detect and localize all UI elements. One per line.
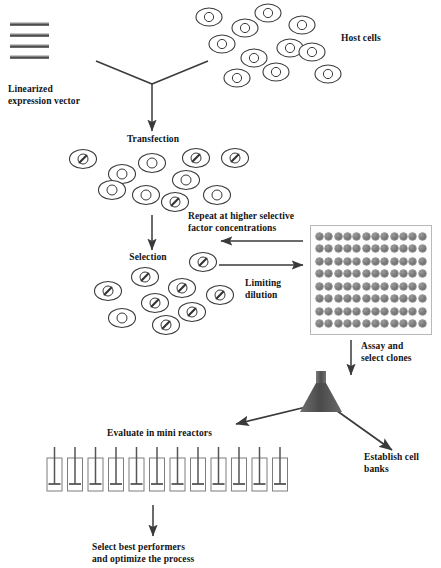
label-host-cells: Host cells (341, 33, 421, 45)
host-cell-cluster (196, 4, 341, 87)
cell-nucleus (147, 158, 157, 168)
cell (153, 316, 180, 335)
mini-reactor (68, 447, 83, 491)
label-limiting-dilution: Limiting dilution (245, 278, 315, 301)
cell (289, 16, 315, 34)
cells-to-transfection-right-branch (152, 61, 208, 84)
cell (299, 43, 325, 61)
cell-nucleus (307, 47, 316, 56)
label-transfection: Transfection (110, 134, 196, 146)
cell (133, 186, 160, 205)
cell (263, 63, 289, 81)
mini-reactor (170, 447, 185, 491)
cell-nucleus (249, 53, 258, 62)
cell (132, 268, 159, 287)
cell-nucleus (297, 20, 306, 29)
cell-nucleus (141, 190, 151, 200)
cell (255, 4, 281, 22)
cell (224, 69, 250, 87)
selected-cell-cluster (95, 253, 234, 335)
cell-nucleus (240, 23, 249, 32)
label-selection: Selection (110, 252, 186, 264)
mini-reactor-row (47, 447, 288, 491)
vector-to-transfection-left-branch (96, 61, 152, 84)
cell (315, 65, 341, 83)
cell (222, 149, 249, 168)
cell (204, 186, 231, 205)
cell-nucleus (285, 43, 294, 52)
funnel-icon (300, 371, 342, 412)
mini-reactor (273, 447, 288, 491)
label-establish-cell-banks: Establish cell banks (364, 452, 440, 475)
cell-nucleus (204, 12, 213, 21)
label-evaluate-mini-reactors: Evaluate in mini reactors (107, 428, 247, 440)
cell (109, 309, 136, 328)
cell-nucleus (107, 185, 117, 195)
cell (142, 294, 169, 313)
mini-reactor (150, 447, 165, 491)
cell (241, 49, 267, 67)
cell-nucleus (181, 175, 191, 185)
cell-nucleus (117, 313, 127, 323)
workflow-diagram: Linearized expression vector Host cells … (0, 0, 441, 568)
cell (179, 303, 206, 322)
mini-reactor (88, 447, 103, 491)
mini-reactor (47, 447, 62, 491)
cell (190, 253, 217, 272)
mini-reactor (211, 447, 226, 491)
cell-nucleus (323, 69, 332, 78)
cell (232, 19, 258, 37)
cell (209, 35, 235, 53)
cell-nucleus (271, 67, 280, 76)
cell (169, 279, 196, 298)
label-assay-select-clones: Assay and select clones (361, 341, 441, 364)
transfected-cell-cluster (70, 149, 249, 212)
cell (173, 171, 200, 190)
mini-reactor (232, 447, 247, 491)
cell (99, 181, 126, 200)
mini-reactor (129, 447, 144, 491)
cell (196, 8, 222, 26)
mini-reactor (252, 447, 267, 491)
label-repeat-selective-factor: Repeat at higher selective factor concen… (188, 211, 318, 234)
funnel-to-cell-banks-arrow (333, 408, 392, 450)
cell-nucleus (217, 39, 226, 48)
cell-nucleus (117, 169, 127, 179)
cell (207, 286, 234, 305)
cell-nucleus (212, 190, 222, 200)
cell (183, 149, 210, 168)
mini-reactor (191, 447, 206, 491)
cell (95, 282, 122, 301)
cell (139, 154, 166, 173)
cell-nucleus (232, 73, 241, 82)
label-select-best-performers: Select best performers and optimize the … (92, 542, 252, 565)
label-linearized-expression-vector: Linearized expression vector (8, 84, 118, 107)
cell (162, 193, 189, 212)
cell (70, 150, 97, 169)
cell-nucleus (263, 8, 272, 17)
mini-reactor (109, 447, 124, 491)
